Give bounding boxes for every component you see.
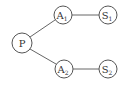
node-a2: A2 [55,60,73,78]
edge-p-a1 [30,20,55,37]
node-p: P [12,33,32,53]
node-s2: S2 [99,60,117,78]
edge-p-a2 [30,49,56,64]
node-p-label: P [19,38,26,49]
tree-diagram: P A1 S1 A2 S2 [0,0,128,87]
node-a1: A1 [54,6,72,24]
node-s1: S1 [99,6,117,24]
